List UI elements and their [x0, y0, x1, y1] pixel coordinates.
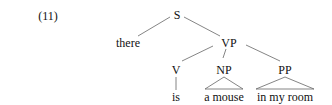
leaf-a-mouse: a mouse [204, 90, 244, 104]
node-np: NP [216, 63, 232, 77]
pp-triangle [256, 77, 314, 89]
tree-edges [138, 17, 314, 90]
example-number: (11) [38, 9, 58, 23]
tree-svg: (11) S there VP V NP PP is a mouse in my… [0, 0, 332, 105]
edge-s-there [138, 17, 170, 36]
leaf-is: is [172, 90, 180, 104]
node-s: S [174, 8, 181, 22]
node-pp: PP [278, 63, 292, 77]
node-vp: VP [221, 36, 237, 50]
leaf-in-my-room: in my room [257, 90, 314, 104]
edge-s-vp [184, 17, 220, 36]
leaf-there: there [116, 36, 140, 50]
edge-vp-v [182, 46, 213, 61]
node-v: V [172, 63, 181, 77]
np-triangle [205, 77, 243, 89]
syntax-tree-figure: (11) S there VP V NP PP is a mouse in my… [0, 0, 332, 105]
edge-vp-pp [246, 45, 280, 61]
edge-vp-np [223, 49, 226, 58]
